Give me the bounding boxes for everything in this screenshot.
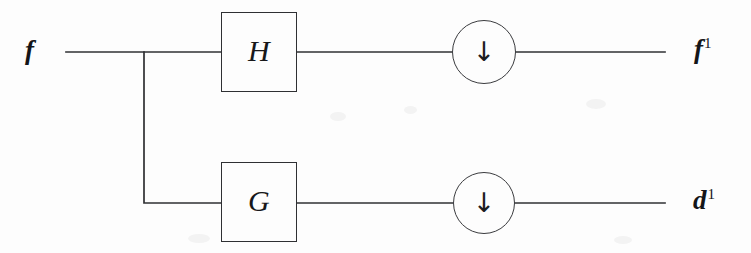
- filter-g-label: G: [248, 186, 270, 216]
- down-arrow-icon: ↓: [473, 189, 496, 216]
- input-label-text: f: [25, 35, 34, 65]
- input-label: f: [25, 37, 34, 64]
- filter-box-g[interactable]: G: [221, 162, 297, 242]
- output-d1-superscript: 1: [708, 186, 716, 202]
- filter-h-label: H: [248, 36, 270, 66]
- output-label-d1: d1: [693, 187, 715, 214]
- filter-box-h[interactable]: H: [221, 12, 297, 92]
- output-label-f1: f1: [694, 36, 712, 63]
- filter-bank-figure: f H G ↓ ↓ f1 d1: [0, 0, 751, 253]
- downsampler-top[interactable]: ↓: [452, 20, 516, 84]
- down-arrow-icon: ↓: [473, 38, 496, 65]
- wire-network: [0, 0, 751, 253]
- output-f1-base: f: [694, 34, 703, 64]
- output-d1-base: d: [693, 185, 707, 215]
- downsampler-bottom[interactable]: ↓: [453, 172, 515, 234]
- wire-branch-down: [144, 52, 221, 203]
- output-f1-superscript: 1: [704, 35, 712, 51]
